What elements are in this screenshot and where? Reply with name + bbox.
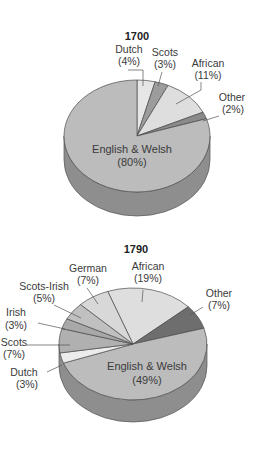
label-african-1790: African	[132, 260, 165, 272]
pie-charts: 1700 Dutch (4%) Scots (3%) African (11%)…	[0, 0, 255, 450]
value-other-1700: (2%)	[222, 103, 244, 115]
label-scots-irish-1790: Scots-Irish	[19, 280, 69, 292]
label-other-1700: Other	[219, 91, 246, 103]
value-german-1790: (7%)	[77, 274, 99, 286]
label-scots-1790: Scots	[1, 336, 27, 348]
value-scots-1790: (7%)	[3, 348, 25, 360]
label-african-1700: African	[192, 57, 225, 69]
value-dutch-1700: (4%)	[118, 55, 140, 67]
label-dutch-1790: Dutch	[10, 366, 38, 378]
label-german-1790: German	[69, 262, 107, 274]
value-dutch-1790: (3%)	[16, 378, 38, 390]
value-english-welsh-1700: (80%)	[117, 156, 146, 168]
label-english-welsh-1790: English & Welsh	[107, 360, 187, 372]
pie-chart-1790	[59, 288, 207, 422]
value-scots-1700: (3%)	[154, 58, 176, 70]
label-scots-1700: Scots	[152, 46, 178, 58]
value-scots-irish-1790: (5%)	[33, 292, 55, 304]
value-english-welsh-1790: (49%)	[132, 374, 161, 386]
value-african-1700: (11%)	[194, 69, 221, 81]
label-english-welsh-1700: English & Welsh	[92, 143, 172, 155]
value-irish-1790: (3%)	[5, 319, 27, 331]
label-other-1790: Other	[206, 287, 233, 299]
value-african-1790: (19%)	[134, 272, 162, 284]
label-dutch-1700: Dutch	[115, 43, 143, 55]
chart-title-1700: 1700	[125, 30, 149, 42]
label-irish-1790: Irish	[6, 306, 26, 318]
chart-title-1790: 1790	[124, 243, 148, 255]
value-other-1790: (7%)	[208, 299, 230, 311]
